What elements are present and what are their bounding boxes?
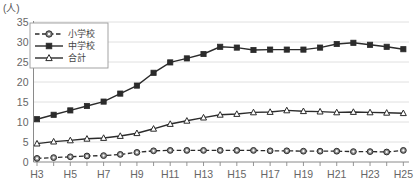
marker-circle-center (53, 157, 55, 159)
data-point (317, 148, 323, 154)
x-tick-label: H13 (194, 168, 213, 180)
data-point (117, 152, 123, 158)
marker-circle-center (86, 155, 88, 157)
legend-label: 合計 (68, 52, 86, 63)
x-tick-label: H21 (327, 168, 346, 180)
y-tick-label: 30 (17, 36, 29, 48)
marker-square (268, 47, 273, 52)
legend-label: 小学校 (68, 28, 95, 39)
marker-square (234, 45, 239, 50)
marker-square (118, 91, 123, 96)
y-tick-label: 25 (17, 56, 29, 68)
marker-circle-center (369, 151, 371, 153)
marker-circle-center (252, 149, 254, 151)
data-point (67, 154, 73, 160)
x-tick-label: H25 (394, 168, 413, 180)
marker-square (168, 60, 173, 65)
data-point (334, 148, 340, 154)
x-tick-label: H19 (294, 168, 313, 180)
data-point (400, 148, 406, 154)
marker-square (201, 51, 206, 56)
marker-square (101, 99, 106, 104)
marker-square (367, 42, 372, 47)
marker-square (317, 45, 322, 50)
data-point (234, 45, 239, 50)
marker-circle-center (103, 155, 105, 157)
marker-circle-center (202, 149, 204, 151)
marker-square (251, 47, 256, 52)
marker-circle-center (386, 151, 388, 153)
data-point (217, 148, 223, 154)
data-point (168, 60, 173, 65)
data-point (234, 148, 240, 154)
marker-circle-center (136, 151, 138, 153)
data-point (101, 99, 106, 104)
data-point (384, 44, 389, 49)
data-point (184, 148, 190, 154)
x-tick-label: H23 (360, 168, 379, 180)
data-point (267, 148, 273, 154)
data-point (384, 149, 390, 155)
data-point (351, 40, 356, 45)
data-point (51, 112, 56, 117)
x-tick-label: H7 (97, 168, 111, 180)
marker-circle-center (186, 149, 188, 151)
marker-square (84, 103, 89, 108)
y-tick-label: 10 (17, 116, 29, 128)
data-point (218, 44, 223, 49)
marker-circle-center (352, 151, 354, 153)
x-tick-label: H3 (30, 168, 44, 180)
marker-square (34, 117, 39, 122)
data-point (84, 103, 89, 108)
data-point (118, 91, 123, 96)
data-point (284, 47, 289, 52)
data-point (101, 153, 107, 159)
data-point (367, 149, 373, 155)
data-point (134, 150, 140, 156)
x-tick-label: H11 (161, 168, 180, 180)
marker-square (218, 44, 223, 49)
marker-square (351, 40, 356, 45)
data-point (334, 41, 339, 46)
marker-square (68, 108, 73, 113)
marker-square (184, 56, 189, 61)
data-point (350, 149, 356, 155)
data-point (251, 148, 257, 154)
data-point (34, 117, 39, 122)
data-point (284, 148, 290, 154)
y-tick-label: 20 (17, 76, 29, 88)
x-tick-label: H9 (130, 168, 144, 180)
data-point (134, 83, 139, 88)
data-point (51, 155, 57, 161)
data-point (34, 156, 40, 162)
data-point (84, 153, 90, 159)
marker-square (384, 44, 389, 49)
legend-marker-square (46, 43, 52, 49)
data-point (401, 47, 406, 52)
marker-circle-center (36, 157, 38, 159)
data-point (151, 148, 157, 154)
data-point (184, 56, 189, 61)
marker-square (284, 47, 289, 52)
marker-circle-center (236, 149, 238, 151)
data-point (317, 45, 322, 50)
data-point (201, 51, 206, 56)
marker-square (134, 83, 139, 88)
data-point (251, 47, 256, 52)
marker-circle-center (69, 156, 71, 158)
legend-marker-circle-center (48, 33, 50, 35)
data-point (367, 42, 372, 47)
chart-canvas: (人)05101520253035H3H5H7H9H11H13H15H17H19… (0, 0, 415, 194)
data-point (268, 47, 273, 52)
legend-label: 中学校 (68, 40, 95, 51)
marker-circle-center (119, 153, 121, 155)
marker-circle-center (302, 150, 304, 152)
y-axis-unit-label: (人) (3, 3, 20, 14)
y-tick-label: 0 (23, 156, 29, 168)
marker-circle-center (336, 150, 338, 152)
x-tick-label: H5 (64, 168, 78, 180)
marker-square (301, 47, 306, 52)
marker-circle-center (319, 150, 321, 152)
data-point (301, 148, 307, 154)
marker-circle-center (286, 150, 288, 152)
